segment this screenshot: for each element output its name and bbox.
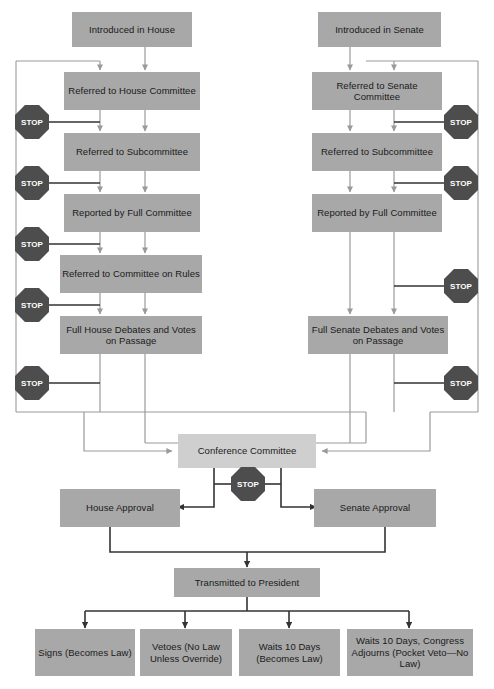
- stop-sign-house-debate[interactable]: STOP: [15, 366, 49, 400]
- node-senate-approval[interactable]: Senate Approval: [314, 489, 436, 527]
- node-transmitted-to-president[interactable]: Transmitted to President: [174, 568, 320, 597]
- node-label: Transmitted to President: [195, 577, 299, 589]
- node-label: Waits 10 Days, Congress Adjourns (Pocket…: [349, 635, 471, 670]
- node-label: Vetoes (No Law Unless Override): [142, 641, 230, 664]
- node-label: Conference Committee: [198, 445, 297, 457]
- stop-label: STOP: [450, 118, 472, 127]
- node-label: Full Senate Debates and Votes on Passage: [310, 324, 446, 347]
- node-outcome-signs[interactable]: Signs (Becomes Law): [35, 629, 135, 676]
- node-label: House Approval: [86, 502, 154, 514]
- node-outcome-waits-becomes-law[interactable]: Waits 10 Days (Becomes Law): [239, 629, 340, 676]
- stop-label: STOP: [21, 179, 43, 188]
- node-outcome-pocket-veto[interactable]: Waits 10 Days, Congress Adjourns (Pocket…: [347, 629, 473, 676]
- node-house-approval[interactable]: House Approval: [60, 489, 180, 527]
- stop-label: STOP: [237, 480, 259, 489]
- stop-label: STOP: [21, 240, 43, 249]
- node-house-reported-by-full-committee[interactable]: Reported by Full Committee: [64, 194, 200, 232]
- node-label: Referred to Subcommittee: [76, 146, 188, 158]
- node-introduced-in-senate[interactable]: Introduced in Senate: [318, 12, 441, 47]
- node-label: Waits 10 Days (Becomes Law): [241, 641, 338, 664]
- node-conference-committee[interactable]: Conference Committee: [178, 434, 316, 468]
- stop-sign-house-reported[interactable]: STOP: [15, 227, 49, 261]
- stop-sign-conference[interactable]: STOP: [231, 467, 265, 501]
- stop-sign-house-rules[interactable]: STOP: [15, 288, 49, 322]
- node-introduced-in-house[interactable]: Introduced in House: [72, 12, 192, 47]
- node-full-house-debates[interactable]: Full House Debates and Votes on Passage: [60, 316, 202, 354]
- node-label: Introduced in House: [89, 24, 175, 36]
- stop-label: STOP: [21, 118, 43, 127]
- stop-label: STOP: [450, 179, 472, 188]
- node-referred-to-house-committee[interactable]: Referred to House Committee: [64, 72, 200, 110]
- node-label: Referred to Subcommittee: [321, 146, 433, 158]
- node-label: Referred to House Committee: [68, 85, 196, 97]
- node-label: Introduced in Senate: [335, 24, 424, 36]
- node-label: Full House Debates and Votes on Passage: [62, 324, 200, 347]
- node-referred-to-senate-committee[interactable]: Referred to Senate Committee: [312, 72, 442, 110]
- node-senate-referred-to-subcommittee[interactable]: Referred to Subcommittee: [312, 133, 442, 171]
- stop-label: STOP: [21, 379, 43, 388]
- node-house-referred-to-subcommittee[interactable]: Referred to Subcommittee: [64, 133, 200, 171]
- stop-sign-house-subcommittee[interactable]: STOP: [15, 166, 49, 200]
- stop-label: STOP: [450, 282, 472, 291]
- stop-sign-senate-debate[interactable]: STOP: [444, 366, 478, 400]
- stop-sign-senate-committee[interactable]: STOP: [444, 105, 478, 139]
- stop-sign-house-committee[interactable]: STOP: [15, 105, 49, 139]
- node-senate-reported-by-full-committee[interactable]: Reported by Full Committee: [312, 194, 442, 232]
- stop-sign-senate-reported[interactable]: STOP: [444, 269, 478, 303]
- node-referred-to-committee-on-rules[interactable]: Referred to Committee on Rules: [60, 255, 202, 293]
- bill-to-law-flowchart: Introduced in House Referred to House Co…: [0, 0, 494, 689]
- node-outcome-vetoes[interactable]: Vetoes (No Law Unless Override): [140, 629, 232, 676]
- node-label: Referred to Senate Committee: [314, 80, 440, 103]
- node-label: Senate Approval: [340, 502, 410, 514]
- node-label: Referred to Committee on Rules: [62, 268, 200, 280]
- node-label: Reported by Full Committee: [72, 207, 192, 219]
- node-label: Reported by Full Committee: [317, 207, 437, 219]
- node-label: Signs (Becomes Law): [38, 647, 131, 659]
- stop-label: STOP: [450, 379, 472, 388]
- node-full-senate-debates[interactable]: Full Senate Debates and Votes on Passage: [308, 316, 448, 354]
- stop-label: STOP: [21, 301, 43, 310]
- stop-sign-senate-subcommittee[interactable]: STOP: [444, 166, 478, 200]
